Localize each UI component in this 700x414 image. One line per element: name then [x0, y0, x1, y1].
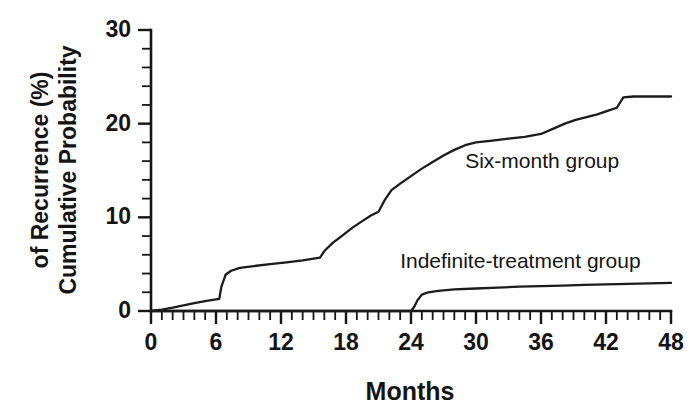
chart-figure: 0102030 0612182430364248 Six-month group…	[0, 0, 700, 414]
x-axis-title: Months	[366, 377, 455, 405]
series-label-six-month-group: Six-month group	[465, 149, 619, 172]
y-tick-label: 10	[105, 203, 131, 229]
y-tick-label: 30	[105, 16, 131, 42]
y-tick-label: 0	[118, 297, 131, 323]
y-axis-title-line2: Cumulative Probability	[55, 45, 81, 294]
x-tick-label: 48	[658, 329, 684, 355]
x-tick-label: 6	[210, 329, 223, 355]
x-tick-label: 18	[333, 329, 359, 355]
recurrence-chart: 0102030 0612182430364248 Six-month group…	[0, 0, 700, 414]
x-tick-label: 42	[593, 329, 619, 355]
x-tick-label: 24	[398, 329, 424, 355]
x-tick-label: 36	[528, 329, 554, 355]
y-tick-label: 20	[105, 110, 131, 136]
x-tick-label: 12	[268, 329, 294, 355]
x-tick-label: 0	[145, 329, 158, 355]
x-tick-label: 30	[463, 329, 489, 355]
series-label-indefinite-treatment-group: Indefinite-treatment group	[400, 249, 640, 272]
y-axis-title-line1: of Recurrence (%)	[27, 72, 53, 269]
